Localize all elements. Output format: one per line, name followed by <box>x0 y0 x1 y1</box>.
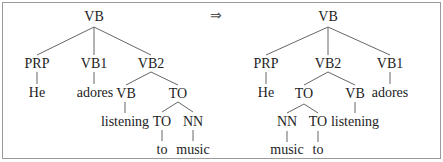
tree-edges <box>0 0 443 162</box>
leaf-music: music <box>270 143 303 157</box>
node-vb-root: VB <box>84 10 103 24</box>
leaf-he: He <box>258 86 274 100</box>
leaf-adores: adores <box>372 86 409 100</box>
node-nn: NN <box>183 115 203 129</box>
node-vb1: VB1 <box>81 57 107 71</box>
transform-arrow-icon: ⇒ <box>210 9 222 23</box>
leaf-to: to <box>157 143 168 157</box>
node-nn: NN <box>277 115 297 129</box>
node-to-phrase: TO <box>169 87 187 101</box>
node-to: TO <box>309 115 327 129</box>
node-prp: PRP <box>254 57 279 71</box>
node-vb2: VB2 <box>315 57 341 71</box>
leaf-he: He <box>29 86 45 100</box>
leaf-music: music <box>176 143 209 157</box>
node-vb: VB <box>116 87 135 101</box>
node-vb-root: VB <box>318 10 337 24</box>
node-vb: VB <box>345 87 364 101</box>
node-vb2: VB2 <box>138 57 164 71</box>
leaf-adores: adores <box>77 86 114 100</box>
leaf-listening: listening <box>101 115 149 129</box>
leaf-listening: listening <box>331 115 379 129</box>
leaf-to: to <box>313 143 324 157</box>
node-vb1: VB1 <box>377 57 403 71</box>
node-to-phrase: TO <box>295 87 313 101</box>
node-to: TO <box>153 115 171 129</box>
node-prp: PRP <box>25 57 50 71</box>
